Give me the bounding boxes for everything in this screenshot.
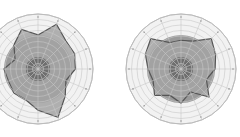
radar-chart-1: [0, 14, 93, 124]
grid: [126, 14, 236, 124]
radar-charts: [0, 0, 240, 137]
radar-chart-2: [126, 14, 236, 124]
